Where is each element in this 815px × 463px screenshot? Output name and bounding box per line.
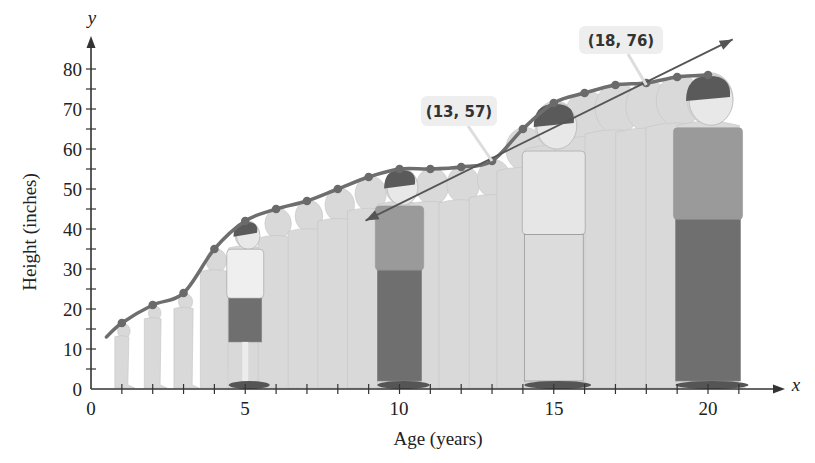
y-axis-variable: y xyxy=(86,7,97,28)
y-tick-label-20: 20 xyxy=(63,299,82,320)
x-axis-arrow-icon xyxy=(773,385,785,394)
data-point-age-7 xyxy=(303,197,312,206)
height-vs-age-chart: y x Age (years) Height (inches) 0 5 10 1… xyxy=(0,0,815,463)
data-point-age-5 xyxy=(241,217,250,226)
silhouette-age-2 xyxy=(144,306,167,388)
y-tick-label-40: 40 xyxy=(63,219,82,240)
data-point-age-16 xyxy=(580,89,589,98)
data-point-age-11 xyxy=(426,165,435,174)
callout-text-18-76: (18, 76) xyxy=(588,32,654,50)
x-origin-label: 0 xyxy=(86,398,96,419)
y-tick-label-50: 50 xyxy=(63,179,82,200)
data-point-age-4 xyxy=(210,245,219,254)
y-tick-label-80: 80 xyxy=(63,59,82,80)
data-point-age-19 xyxy=(673,73,682,82)
x-tick-label-10: 10 xyxy=(390,398,409,419)
data-point-age-15 xyxy=(549,99,558,108)
y-axis-arrow-icon xyxy=(87,36,96,48)
y-tick-label-70: 70 xyxy=(63,99,82,120)
x-tick-label-5: 5 xyxy=(240,398,250,419)
data-point-age-2 xyxy=(148,301,157,310)
x-axis-title: Age (years) xyxy=(393,428,482,450)
data-point-age-1 xyxy=(118,319,127,328)
y-tick-label-60: 60 xyxy=(63,139,82,160)
y-tick-label-0: 0 xyxy=(73,379,83,400)
data-point-age-6 xyxy=(272,205,281,214)
silhouette-age-1 xyxy=(115,324,135,388)
data-point-age-14 xyxy=(519,125,528,134)
data-point-age-9 xyxy=(364,173,373,182)
data-point-age-20 xyxy=(704,71,713,80)
y-tick-label-30: 30 xyxy=(63,259,82,280)
y-tick-label-10: 10 xyxy=(63,339,82,360)
data-point-age-3 xyxy=(179,289,188,298)
arrowhead-right-icon xyxy=(719,39,733,49)
silhouette-age-3 xyxy=(174,294,199,388)
x-tick-label-20: 20 xyxy=(699,398,718,419)
data-point-age-17 xyxy=(611,81,620,90)
callout-text-13-57: (13, 57) xyxy=(426,103,492,121)
data-point-age-10 xyxy=(395,165,404,174)
data-point-age-12 xyxy=(457,163,466,172)
data-point-age-8 xyxy=(334,185,343,194)
x-axis-variable: x xyxy=(791,374,801,395)
y-axis-title: Height (inches) xyxy=(19,173,41,291)
x-tick-label-15: 15 xyxy=(545,398,564,419)
